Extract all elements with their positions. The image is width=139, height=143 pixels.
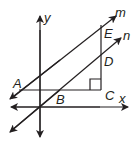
line-n-lower [10, 90, 60, 132]
y-axis-label: y [43, 10, 52, 25]
line-n-label: n [123, 28, 130, 43]
x-axis-label: x [118, 91, 126, 106]
point-d-label: D [104, 54, 113, 69]
geometry-diagram: y x m n A B C D E [0, 0, 139, 143]
point-b-label: B [56, 92, 65, 107]
point-c-label: C [105, 88, 115, 103]
right-angle-marker [90, 79, 101, 90]
point-e-label: E [104, 26, 113, 41]
line-m-label: m [115, 5, 126, 20]
point-a-label: A [12, 76, 22, 91]
